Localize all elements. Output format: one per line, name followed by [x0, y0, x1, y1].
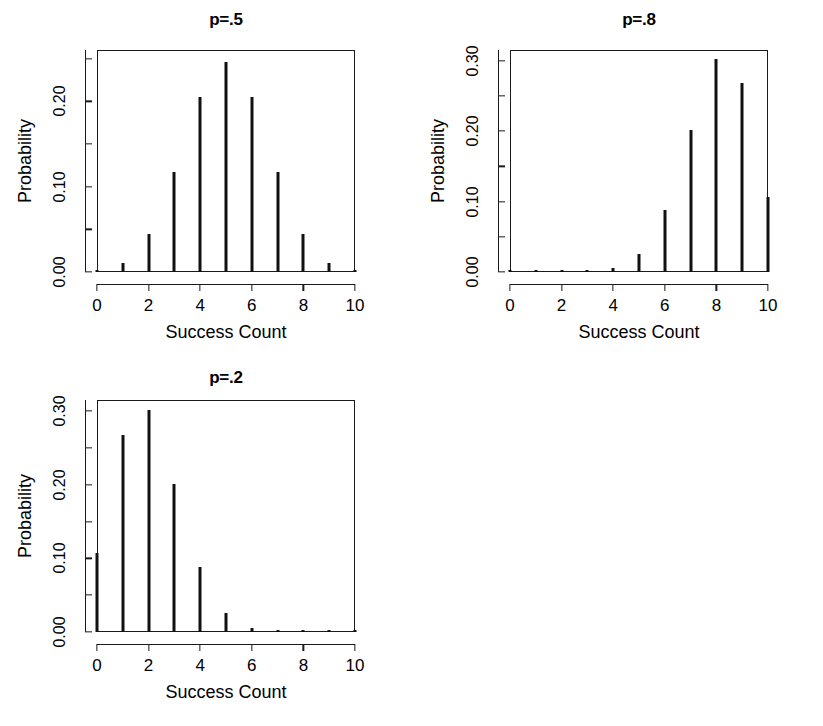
- x-axis-tick-label: 2: [144, 656, 153, 676]
- data-spike: [199, 567, 202, 632]
- y-axis-minor-tick: [85, 595, 92, 596]
- y-axis-minor-tick: [85, 447, 92, 448]
- y-axis-tick-label: 0.30: [51, 395, 69, 426]
- data-spike: [276, 630, 279, 632]
- y-axis-minor-tick: [85, 521, 92, 522]
- data-spike: [302, 630, 305, 632]
- chart-panel-3: p=.20.000.100.200.300246810Success Count…: [0, 0, 823, 726]
- data-spike: [173, 484, 176, 632]
- x-axis-tick: [303, 644, 304, 651]
- y-axis-title: Probability: [15, 474, 36, 558]
- x-axis-title: Success Count: [165, 682, 286, 703]
- x-axis-tick: [148, 644, 149, 651]
- x-axis-tick-label: 10: [346, 656, 365, 676]
- y-axis-tick: [85, 631, 92, 632]
- y-axis-line: [85, 400, 86, 632]
- x-axis-tick-label: 0: [92, 656, 101, 676]
- data-spike: [96, 553, 99, 632]
- data-spike: [354, 630, 357, 632]
- y-axis-tick: [85, 410, 92, 411]
- x-axis-tick-label: 6: [247, 656, 256, 676]
- y-axis-tick-label: 0.20: [51, 469, 69, 500]
- x-axis-tick: [200, 644, 201, 651]
- data-spike: [121, 435, 124, 632]
- y-axis-tick: [85, 558, 92, 559]
- x-axis-line: [97, 644, 355, 645]
- data-spike: [225, 613, 228, 632]
- x-axis-tick: [354, 644, 355, 651]
- x-axis-tick-label: 8: [299, 656, 308, 676]
- x-axis-tick: [96, 644, 97, 651]
- data-series: [97, 400, 355, 632]
- y-axis-tick: [85, 484, 92, 485]
- panel-title: p=.2: [97, 368, 355, 388]
- data-spike: [250, 628, 253, 632]
- data-spike: [147, 410, 150, 632]
- data-spike: [328, 630, 331, 632]
- y-axis-tick-label: 0.10: [51, 543, 69, 574]
- y-axis-tick-label: 0.00: [51, 616, 69, 647]
- binomial-distribution-figure: p=.50.000.100.200246810Success CountProb…: [0, 0, 823, 726]
- x-axis-tick: [251, 644, 252, 651]
- x-axis-tick-label: 4: [195, 656, 204, 676]
